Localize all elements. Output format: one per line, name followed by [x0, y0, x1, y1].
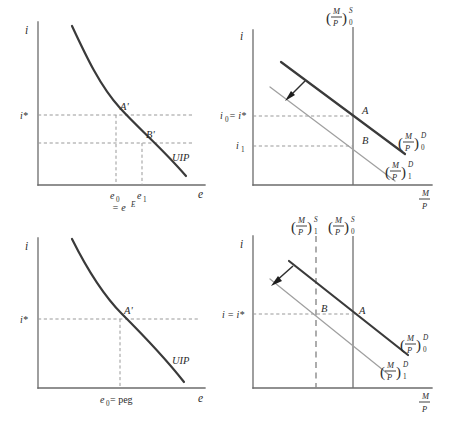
- x-axis-label-m-over-p: M P: [419, 392, 430, 414]
- panel-money-market-floating: i M P i 0 = i* i 1 ( M P ) S 0 (: [220, 0, 454, 214]
- svg-text:(: (: [328, 219, 333, 236]
- svg-text:M: M: [421, 392, 430, 401]
- svg-text:M: M: [406, 334, 415, 343]
- svg-text:E: E: [130, 201, 136, 209]
- svg-text:e: e: [137, 190, 142, 201]
- svg-text:(: (: [400, 337, 405, 354]
- uip-curve: [72, 26, 186, 176]
- svg-text:(: (: [380, 364, 385, 381]
- svg-text:1: 1: [408, 173, 412, 181]
- svg-text:0: 0: [351, 228, 355, 236]
- x-tick-e1: e 1: [137, 190, 147, 204]
- svg-text:1: 1: [241, 146, 245, 154]
- economics-figure-four-panel: i e i* e 0 = e E e 1 A' B' UIP: [0, 0, 454, 427]
- x-axis-label: e: [198, 188, 203, 200]
- money-supply-label-0: ( M P ) S 0: [328, 216, 355, 237]
- svg-text:1: 1: [143, 196, 147, 204]
- y-axis-label: i: [25, 240, 28, 252]
- uip-curve-label: UIP: [172, 152, 190, 163]
- svg-text:P: P: [421, 202, 427, 211]
- svg-text:M: M: [391, 161, 400, 170]
- svg-text:S: S: [351, 216, 355, 224]
- y-axis-label: i: [240, 30, 243, 42]
- svg-text:e: e: [110, 190, 115, 201]
- y-tick-i1: i 1: [236, 140, 245, 154]
- svg-text:e: e: [100, 394, 105, 405]
- y-axis-label: i: [240, 238, 243, 250]
- x-axis-label-m-over-p: M P: [419, 189, 430, 211]
- svg-text:(: (: [326, 10, 331, 27]
- x-tick-e0: e 0 = e E: [110, 190, 136, 213]
- y-tick-istar: i*: [20, 110, 28, 121]
- svg-text:): ): [344, 219, 349, 236]
- svg-text:): ): [416, 337, 421, 354]
- svg-text:M: M: [386, 361, 395, 370]
- y-tick-i-equals-istar: i = i*: [222, 309, 244, 320]
- svg-text:i: i: [236, 140, 239, 151]
- svg-text:1: 1: [403, 373, 407, 381]
- svg-text:): ): [342, 10, 347, 27]
- svg-text:): ): [307, 219, 312, 236]
- svg-text:P: P: [404, 144, 410, 153]
- svg-text:1: 1: [314, 228, 318, 236]
- svg-text:D: D: [420, 132, 427, 140]
- panel-uip-peg: i e i* e 0 = peg A' UIP: [0, 212, 227, 427]
- money-demand-label-1: ( M P ) D 1: [385, 161, 414, 182]
- money-supply-label-0: ( M P ) S 0: [326, 7, 353, 28]
- money-supply-label-1: ( M P ) S 1: [291, 216, 318, 237]
- svg-text:P: P: [406, 346, 412, 355]
- svg-text:M: M: [334, 216, 343, 225]
- point-label-a: A: [358, 305, 366, 316]
- svg-text:D: D: [402, 361, 409, 369]
- y-tick-istar: i*: [20, 314, 28, 325]
- svg-text:M: M: [421, 189, 430, 198]
- svg-text:M: M: [332, 7, 341, 16]
- svg-text:P: P: [421, 405, 427, 414]
- svg-text:= peg: = peg: [110, 394, 133, 405]
- svg-text:): ): [414, 135, 419, 152]
- svg-text:i: i: [220, 110, 223, 121]
- svg-text:P: P: [386, 373, 392, 382]
- svg-text:(: (: [291, 219, 296, 236]
- x-axis-label: e: [198, 392, 203, 404]
- svg-text:M: M: [297, 216, 306, 225]
- svg-text:(: (: [385, 164, 390, 181]
- point-label-b: B: [362, 135, 369, 146]
- svg-text:0: 0: [349, 19, 353, 27]
- svg-text:D: D: [422, 334, 429, 342]
- svg-text:S: S: [349, 7, 353, 15]
- svg-text:P: P: [297, 228, 303, 237]
- svg-text:P: P: [332, 19, 338, 28]
- svg-text:P: P: [391, 173, 397, 182]
- svg-text:M: M: [404, 132, 413, 141]
- money-demand-label-1: ( M P ) D 1: [380, 361, 409, 382]
- svg-text:): ): [396, 364, 401, 381]
- x-tick-e0-peg: e 0 = peg: [100, 394, 133, 408]
- svg-text:S: S: [314, 216, 318, 224]
- point-label-b: B: [321, 303, 328, 314]
- svg-text:P: P: [334, 228, 340, 237]
- svg-text:): ): [401, 164, 406, 181]
- point-label-a-prime: A': [119, 101, 129, 112]
- panel-uip-floating: i e i* e 0 = e E e 1 A' B' UIP: [0, 0, 227, 214]
- y-axis-label: i: [25, 24, 28, 36]
- money-demand-curve-0: [281, 62, 405, 154]
- panel-money-market-peg: i M P i = i* ( M P ) S 1 ( M P ) S 0: [220, 212, 454, 427]
- point-label-b-prime: B': [146, 129, 155, 140]
- svg-text:(: (: [398, 135, 403, 152]
- money-demand-label-0: ( M P ) D 0: [398, 132, 427, 153]
- uip-curve-label: UIP: [172, 355, 190, 366]
- svg-text:D: D: [407, 161, 414, 169]
- y-tick-i0: i 0 = i*: [220, 110, 246, 124]
- point-label-a: A: [361, 105, 369, 116]
- svg-text:= i*: = i*: [229, 110, 246, 121]
- svg-text:0: 0: [421, 144, 425, 152]
- money-demand-label-0: ( M P ) D 0: [400, 334, 429, 355]
- point-label-a-prime: A': [123, 305, 133, 316]
- svg-text:0: 0: [423, 346, 427, 354]
